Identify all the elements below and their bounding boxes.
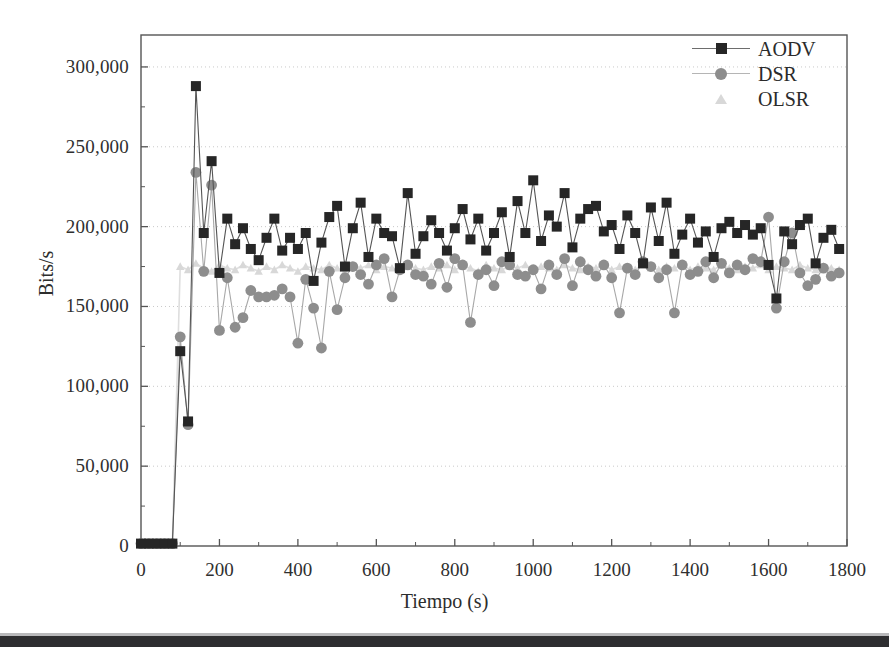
marker-point (567, 242, 577, 252)
marker-point (426, 279, 437, 290)
marker-point (756, 223, 766, 233)
marker-point (826, 225, 836, 235)
marker-point (771, 293, 781, 303)
marker-point (442, 246, 452, 256)
filled-circle-marker-icon (715, 68, 727, 80)
marker-point (528, 175, 538, 185)
marker-point (183, 416, 193, 426)
y-tick-label: 50,000 (0, 456, 129, 475)
marker-point (473, 214, 483, 224)
marker-point (536, 284, 547, 295)
marker-point (567, 280, 578, 291)
marker-point (724, 217, 734, 227)
marker-point (834, 244, 844, 254)
marker-point (379, 253, 390, 264)
marker-point (662, 198, 672, 208)
marker-point (324, 266, 335, 277)
marker-point (199, 228, 209, 238)
marker-point (724, 268, 735, 279)
marker-point (458, 204, 468, 214)
marker-point (387, 231, 397, 241)
marker-point (395, 263, 405, 273)
marker-point (355, 269, 366, 280)
marker-point (324, 212, 334, 222)
marker-point (607, 220, 617, 230)
marker-point (239, 261, 247, 269)
marker-point (787, 239, 797, 249)
marker-point (175, 331, 186, 342)
marker-point (285, 233, 295, 243)
marker-point (175, 346, 185, 356)
marker-point (457, 260, 468, 271)
marker-point (614, 307, 625, 318)
x-tick-label: 600 (336, 560, 416, 579)
x-tick-label: 1200 (572, 560, 652, 579)
y-tick-label: 250,000 (0, 137, 129, 156)
marker-point (669, 249, 679, 259)
marker-point (316, 238, 326, 248)
marker-point (238, 312, 249, 323)
marker-point (254, 255, 264, 265)
marker-point (559, 253, 570, 264)
legend-label-aodv: AODV (752, 39, 816, 59)
marker-point (693, 238, 703, 248)
marker-point (434, 228, 444, 238)
marker-point (709, 252, 719, 262)
marker-point (834, 268, 845, 279)
x-tick-label: 1600 (729, 560, 809, 579)
marker-point (654, 236, 664, 246)
marker-point (411, 249, 421, 259)
marker-point (214, 325, 225, 336)
legend-swatch-aodv (690, 38, 752, 60)
y-tick-label: 200,000 (0, 217, 129, 236)
y-tick-label: 100,000 (0, 376, 129, 395)
marker-point (293, 244, 303, 254)
marker-point (176, 262, 184, 270)
marker-point (677, 230, 687, 240)
marker-point (167, 539, 177, 549)
y-tick-label: 300,000 (0, 57, 129, 76)
marker-point (606, 272, 617, 283)
marker-point (206, 180, 217, 191)
marker-point (230, 239, 240, 249)
x-axis-title: Tiempo (s) (0, 590, 889, 613)
marker-point (811, 258, 821, 268)
marker-point (340, 272, 351, 283)
marker-point (403, 188, 413, 198)
marker-point (622, 210, 632, 220)
marker-point (653, 272, 664, 283)
x-tick-label: 400 (258, 560, 338, 579)
marker-point (661, 264, 672, 275)
marker-point (505, 252, 515, 262)
marker-point (277, 246, 287, 256)
marker-point (387, 291, 398, 302)
marker-point (701, 226, 711, 236)
filled-triangle-marker-icon (715, 94, 727, 104)
series-olsr (137, 259, 844, 547)
marker-point (677, 260, 688, 271)
marker-point (771, 303, 782, 314)
legend-label-olsr: OLSR (752, 89, 809, 109)
chart-legend: AODV DSR OLSR (690, 36, 840, 111)
marker-point (426, 215, 436, 225)
marker-point (795, 268, 806, 279)
marker-point (552, 222, 562, 232)
x-tick-label: 200 (179, 560, 259, 579)
marker-point (575, 256, 586, 267)
marker-point (615, 244, 625, 254)
marker-point (348, 223, 358, 233)
marker-point (810, 274, 821, 285)
marker-point (489, 228, 499, 238)
marker-point (214, 268, 224, 278)
marker-point (740, 220, 750, 230)
marker-point (207, 156, 217, 166)
marker-point (418, 231, 428, 241)
page-edge-bar (0, 636, 889, 647)
marker-point (796, 261, 804, 269)
marker-point (450, 223, 460, 233)
x-tick-label: 1800 (807, 560, 887, 579)
marker-point (536, 236, 546, 246)
marker-point (693, 266, 704, 277)
marker-point (764, 260, 774, 270)
marker-point (560, 188, 570, 198)
